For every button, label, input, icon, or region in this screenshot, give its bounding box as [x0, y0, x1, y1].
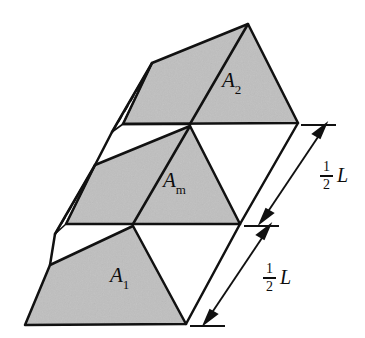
arrowhead-lower-bottom — [204, 310, 217, 324]
edge-connector-mid-right — [186, 224, 240, 324]
fraction-denominator-upper: 2 — [322, 178, 331, 192]
fraction-one-half-lower: 1 2 — [263, 262, 276, 294]
fraction-denominator-lower: 2 — [265, 280, 274, 294]
area-label-a1: A1 — [110, 263, 129, 291]
area-label-a2-subscript: 2 — [235, 82, 242, 97]
area-label-a2-symbol: A — [222, 68, 235, 92]
area-label-am-subscript: m — [176, 182, 186, 197]
face-a1-quad — [25, 226, 186, 325]
dimension-label-upper: 1 2 L — [320, 160, 348, 192]
dim-line-upper — [265, 131, 322, 216]
dim-line-lower — [209, 232, 266, 317]
fraction-numerator-lower: 1 — [265, 262, 274, 276]
dimension-ticks — [190, 125, 336, 326]
fraction-one-half-upper: 1 2 — [320, 160, 333, 192]
area-label-am: Am — [163, 168, 186, 196]
area-label-am-symbol: A — [163, 168, 176, 192]
area-label-a1-symbol: A — [110, 263, 123, 287]
area-label-a1-subscript: 1 — [123, 277, 130, 292]
edge-connector-mid-left — [50, 234, 55, 265]
dimension-label-lower: 1 2 L — [263, 262, 291, 294]
arrowhead-lower-top — [257, 225, 270, 239]
arrowhead-upper-top — [313, 124, 326, 138]
dimension-variable-upper: L — [337, 164, 348, 187]
arrowhead-upper-bottom — [260, 209, 273, 223]
fraction-numerator-upper: 1 — [322, 160, 331, 174]
dimension-variable-lower: L — [280, 266, 291, 289]
area-label-a2: A2 — [222, 68, 241, 96]
